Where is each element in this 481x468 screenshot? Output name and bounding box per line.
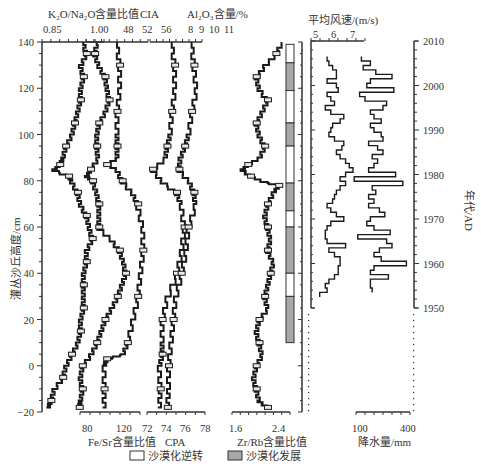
- desertification-band: [286, 146, 294, 183]
- sample-marker: [256, 341, 263, 345]
- sample-marker: [96, 202, 103, 206]
- tick-label: 120: [116, 423, 132, 434]
- sample-marker: [172, 63, 179, 67]
- legend-development-swatch: [228, 451, 242, 460]
- sample-marker: [248, 174, 255, 178]
- sample-marker: [123, 271, 130, 275]
- sample-marker: [89, 237, 96, 241]
- tick-label: 0.85: [43, 24, 61, 35]
- tick-label: 0: [29, 361, 34, 372]
- sample-marker: [170, 318, 177, 322]
- desertification-band: [286, 91, 294, 123]
- tick-label: 10: [209, 24, 220, 35]
- sample-marker: [48, 398, 55, 402]
- cpa-title: CPA: [165, 436, 185, 448]
- data-line: [151, 42, 185, 407]
- tick-label: 1.00: [90, 24, 108, 35]
- dot: [413, 332, 414, 333]
- fesr-title: Fe/Sr含量比值: [88, 435, 156, 448]
- sample-marker: [104, 163, 111, 167]
- sample-marker: [94, 144, 101, 148]
- desertification-band: [286, 123, 294, 146]
- sample-marker: [90, 179, 97, 183]
- legend-reversal-label: 沙漠化逆转: [148, 449, 203, 462]
- dot: [413, 410, 414, 411]
- tick-label: 140: [18, 37, 34, 48]
- sample-marker: [77, 98, 84, 102]
- sample-marker: [256, 318, 263, 322]
- k2o-tick-labels: 0.85 1.00: [43, 24, 108, 35]
- tick-label: 120: [18, 83, 34, 94]
- sample-marker: [264, 248, 271, 252]
- al2o3-title: Al₂O₃含量/%: [187, 7, 248, 20]
- sample-marker: [174, 190, 181, 194]
- dot: [413, 350, 414, 351]
- dot: [413, 326, 414, 327]
- dot: [308, 356, 309, 357]
- sample-marker: [185, 225, 192, 229]
- sample-marker: [117, 63, 124, 67]
- tick-label: 1.6: [229, 423, 242, 434]
- dot: [308, 386, 309, 387]
- sample-marker: [88, 167, 95, 171]
- tick-label: 72: [142, 423, 153, 434]
- desertification-band: [286, 273, 294, 296]
- cia-title: CIA: [140, 8, 159, 20]
- sample-marker: [264, 405, 271, 409]
- dot: [413, 320, 414, 321]
- tick-label: 11: [224, 24, 234, 35]
- sample-marker: [164, 405, 171, 409]
- sample-marker: [157, 387, 164, 391]
- sample-marker: [262, 294, 269, 298]
- sample-marker: [66, 174, 73, 178]
- tick-label: 76: [180, 423, 191, 434]
- legend-reversal-swatch: [130, 451, 144, 460]
- k2o-title: K₂O/Na₂O含量比值: [48, 7, 139, 20]
- wind-tick-labels: 5 6 7: [313, 29, 355, 40]
- tick-label: 2000: [423, 81, 444, 92]
- tick-label: 100: [18, 130, 34, 141]
- sample-marker: [77, 329, 84, 333]
- sample-marker: [63, 144, 70, 148]
- sample-marker: [57, 163, 64, 167]
- sample-marker: [178, 271, 185, 275]
- sample-marker: [106, 98, 113, 102]
- dot: [308, 320, 309, 321]
- cia-tick-labels: 48 52 56: [123, 24, 172, 35]
- sample-marker: [253, 364, 260, 368]
- sample-marker: [165, 364, 172, 368]
- sample-marker: [79, 387, 86, 391]
- sample-marker: [267, 271, 274, 275]
- tick-label: 60: [24, 222, 35, 233]
- sample-marker: [114, 294, 121, 298]
- sample-marker: [104, 357, 111, 361]
- dot: [413, 356, 414, 357]
- tick-label: 9: [199, 24, 204, 35]
- desertification-band: [286, 44, 294, 63]
- tick-label: 8: [188, 24, 193, 35]
- tick-label: 1970: [423, 214, 444, 225]
- tick-label: 1950: [423, 303, 444, 314]
- sample-marker: [159, 318, 166, 322]
- tick-label: 1990: [423, 125, 444, 136]
- sample-marker: [262, 144, 269, 148]
- tick-label: −20: [18, 407, 34, 418]
- tick-label: 56: [161, 24, 172, 35]
- sample-marker: [79, 364, 86, 368]
- dot: [308, 404, 309, 405]
- tick-label: 52: [142, 24, 153, 35]
- sample-marker: [114, 144, 121, 148]
- dot: [308, 368, 309, 369]
- sample-marker: [253, 387, 260, 391]
- sample-marker: [83, 213, 90, 217]
- tick-label: 1960: [423, 259, 444, 270]
- dot: [308, 314, 309, 315]
- geochemistry-depth-chart: K₂O/Na₂O含量比值 CIA Al₂O₃含量/% 平均风速/(m/s) 0.…: [0, 0, 481, 468]
- sample-marker: [264, 98, 271, 102]
- precipitation-line: [354, 57, 406, 293]
- sample-marker: [164, 144, 171, 148]
- wind-speed-line: [320, 57, 353, 297]
- sample-marker: [191, 63, 198, 67]
- sample-marker: [191, 190, 198, 194]
- desertification-band: [286, 227, 294, 273]
